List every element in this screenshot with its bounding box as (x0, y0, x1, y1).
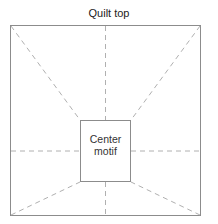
center-motif-label: Center motif (80, 133, 131, 157)
quilt-top-diagram (0, 0, 218, 224)
center-label-line2: motif (80, 145, 131, 157)
center-label-line1: Center (80, 133, 131, 145)
